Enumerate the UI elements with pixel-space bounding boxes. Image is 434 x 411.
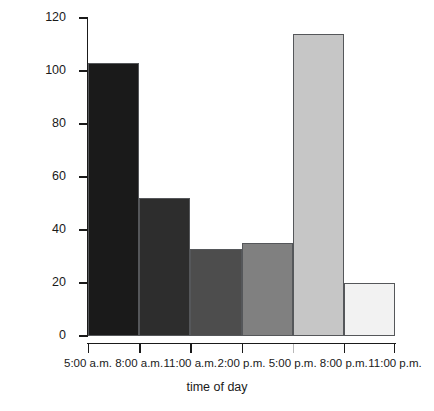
x-tick-label: 8:00 p.m. — [320, 357, 368, 369]
y-tick-mark — [79, 123, 88, 124]
y-tick-label: 80 — [32, 117, 66, 130]
x-tick-label: 2:00 p.m. — [218, 357, 266, 369]
x-tick-label: 5:00 p.m. — [269, 357, 317, 369]
bar — [344, 283, 395, 336]
y-tick-label: 60 — [32, 170, 66, 183]
y-axis-tick-labels: 020406080100120 — [30, 0, 66, 411]
y-tick-mark — [79, 176, 88, 177]
bar — [242, 243, 293, 336]
x-tick-mark — [293, 344, 294, 353]
y-tick-label: 0 — [32, 329, 66, 342]
x-axis-tick-labels: 5:00 a.m.8:00 a.m.11:00 a.m.2:00 p.m.5:0… — [40, 357, 434, 375]
y-tick-mark — [79, 229, 88, 230]
bar-chart: number of cars 020406080100120 5:00 a.m.… — [0, 0, 434, 411]
y-tick-label: 100 — [32, 64, 66, 77]
x-tick-mark — [190, 344, 191, 353]
bar — [293, 34, 344, 336]
bar — [139, 198, 190, 336]
y-tick-mark — [79, 17, 88, 18]
x-tick-label: 5:00 a.m. — [64, 357, 112, 369]
x-axis-tick-marks — [88, 344, 395, 353]
bar — [190, 249, 241, 336]
bar — [88, 63, 139, 336]
x-tick-mark — [394, 344, 395, 353]
x-axis-label: time of day — [0, 380, 434, 394]
y-tick-label: 20 — [32, 276, 66, 289]
x-tick-label: 8:00 a.m. — [115, 357, 163, 369]
x-tick-label: 11:00 p.m. — [368, 357, 422, 369]
y-tick-label: 40 — [32, 223, 66, 236]
x-tick-label: 11:00 a.m. — [164, 357, 218, 369]
y-tick-mark — [79, 70, 88, 71]
x-tick-mark — [344, 344, 345, 353]
y-tick-mark — [79, 282, 88, 283]
x-tick-mark — [88, 344, 89, 353]
y-tick-label: 120 — [32, 11, 66, 24]
x-tick-mark — [242, 344, 243, 353]
y-tick-mark — [79, 335, 88, 336]
x-tick-mark — [139, 344, 140, 353]
plot-area — [88, 18, 395, 336]
bars-group — [88, 18, 395, 336]
